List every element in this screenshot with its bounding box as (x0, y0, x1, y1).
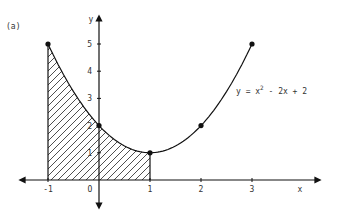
svg-text:x: x (298, 185, 303, 194)
svg-text:4: 4 (87, 67, 92, 76)
parabola-plot: -112312345Oxy (a) y = x2 - 2x + 2 (0, 0, 347, 219)
panel-label: (a) (6, 22, 20, 31)
svg-text:1: 1 (87, 149, 92, 158)
svg-text:O: O (88, 185, 93, 194)
svg-text:2: 2 (87, 122, 92, 131)
equation-label: y = x2 - 2x + 2 (236, 84, 307, 96)
svg-text:3: 3 (250, 185, 255, 194)
svg-text:1: 1 (148, 185, 153, 194)
svg-text:2: 2 (199, 185, 204, 194)
svg-text:5: 5 (87, 40, 92, 49)
svg-text:3: 3 (87, 94, 92, 103)
svg-text:y: y (89, 15, 94, 24)
svg-text:-1: -1 (43, 185, 53, 194)
